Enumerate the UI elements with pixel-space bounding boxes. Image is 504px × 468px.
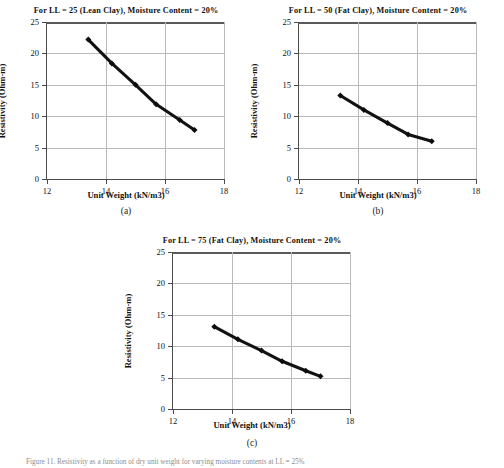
subfigure-label-c: (c): [126, 438, 378, 448]
x-gridline: [350, 252, 351, 409]
y-axis-tick-label: 15: [31, 80, 40, 90]
plot-area-a: 051015202512141618: [46, 22, 224, 180]
x-axis-tick: [358, 179, 359, 184]
x-axis-title-b: Unit Weight (kN/m3): [252, 190, 504, 200]
y-axis-title-a: Resistivity (Ohm-m): [0, 64, 7, 139]
x-axis-title-a: Unit Weight (kN/m3): [0, 190, 252, 200]
chart-title-c: For LL = 75 (Fat Clay), Moisture Content…: [126, 236, 378, 245]
subfigure-label-a: (a): [0, 206, 252, 216]
chart-title-a: For LL = 25 (Lean Clay), Moisture Conten…: [0, 6, 252, 15]
subfigure-label-b: (b): [252, 206, 504, 216]
y-axis-tick-label: 20: [31, 48, 40, 58]
x-axis-tick: [299, 179, 300, 184]
y-axis-tick-label: 0: [161, 404, 165, 414]
y-axis-tick-label: 15: [283, 80, 292, 90]
x-axis-tick: [106, 179, 107, 184]
chart-panel-c: For LL = 75 (Fat Clay), Moisture Content…: [126, 230, 378, 455]
x-axis-tick: [47, 179, 48, 184]
chart-panel-a: For LL = 25 (Lean Clay), Moisture Conten…: [0, 0, 252, 225]
y-axis-tick-label: 5: [287, 143, 291, 153]
x-axis-title-c: Unit Weight (kN/m3): [126, 420, 378, 430]
x-axis-tick: [232, 409, 233, 414]
x-gridline: [224, 22, 225, 179]
x-axis-tick: [165, 179, 166, 184]
plot-area-b: 051015202512141618: [298, 22, 476, 180]
data-series: [47, 22, 224, 179]
y-axis-title-b: Resistivity (Ohm-m): [249, 64, 259, 139]
figure-caption: Figure 11. Resistivity as a function of …: [26, 458, 486, 467]
x-axis-tick: [476, 179, 477, 184]
chart-title-b: For LL = 50 (Fat Clay), Moisture Content…: [252, 6, 504, 15]
y-axis-tick-label: 0: [35, 174, 39, 184]
y-axis-tick-label: 25: [31, 17, 40, 27]
y-axis-tick-label: 20: [283, 48, 292, 58]
plot-area-c: 051015202512141618: [172, 252, 350, 410]
x-axis-tick: [173, 409, 174, 414]
series-line: [340, 95, 431, 141]
y-axis-tick-label: 10: [157, 341, 166, 351]
y-axis-tick-label: 5: [35, 143, 39, 153]
x-axis-tick: [224, 179, 225, 184]
y-axis-tick-label: 5: [161, 373, 165, 383]
y-axis-tick-label: 10: [31, 111, 40, 121]
chart-panel-b: For LL = 50 (Fat Clay), Moisture Content…: [252, 0, 504, 225]
x-axis-tick: [417, 179, 418, 184]
y-axis-tick-label: 0: [287, 174, 291, 184]
y-axis-tick-label: 20: [157, 278, 166, 288]
y-axis-tick-label: 25: [283, 17, 292, 27]
y-axis-tick-label: 10: [283, 111, 292, 121]
y-axis-title-c: Resistivity (Ohm-m): [123, 294, 133, 369]
y-axis-tick-label: 15: [157, 310, 166, 320]
y-axis-tick-label: 25: [157, 247, 166, 257]
data-series: [299, 22, 476, 179]
x-gridline: [476, 22, 477, 179]
x-axis-tick: [291, 409, 292, 414]
series-line: [88, 40, 194, 130]
figure-page: For LL = 25 (Lean Clay), Moisture Conten…: [0, 0, 504, 468]
x-axis-tick: [350, 409, 351, 414]
data-series: [173, 252, 350, 409]
